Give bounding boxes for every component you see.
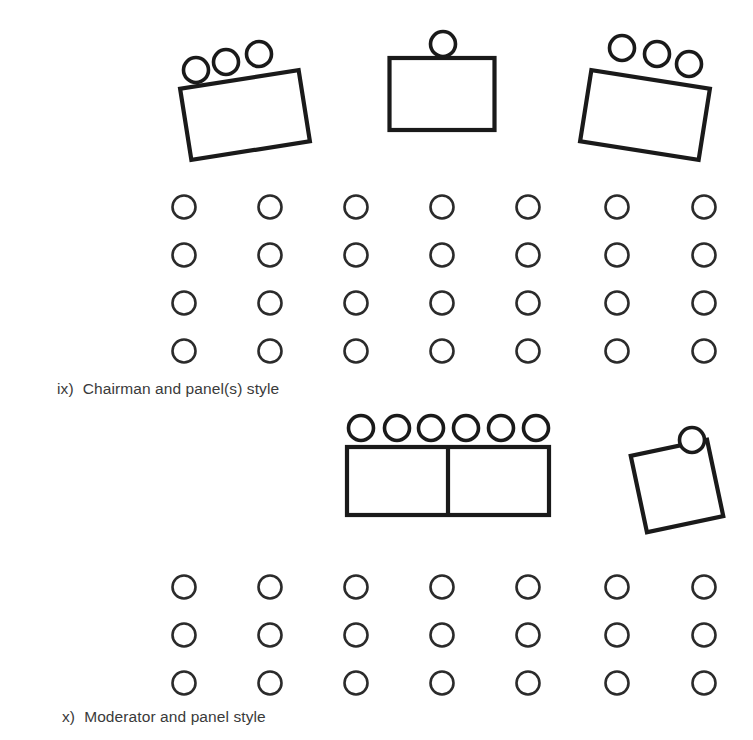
audience-seat xyxy=(693,292,716,315)
panel-chair xyxy=(454,416,479,441)
audience-seat xyxy=(173,672,196,695)
caption-label-ix: Chairman and panel(s) style xyxy=(83,380,280,397)
audience-seat xyxy=(259,244,282,267)
caption-chairman-and-panels: ix)Chairman and panel(s) style xyxy=(57,380,279,398)
audience-row xyxy=(173,340,716,363)
panel-chair xyxy=(385,416,410,441)
caption-moderator-and-panel: x)Moderator and panel style xyxy=(62,708,266,726)
audience-seat xyxy=(693,672,716,695)
audience-seat xyxy=(693,244,716,267)
caption-numeral-ix: ix) xyxy=(57,380,74,398)
panel-chairs-group-right xyxy=(610,36,702,77)
panel-chair xyxy=(677,52,702,77)
audience-seat xyxy=(173,624,196,647)
audience-row xyxy=(173,576,716,599)
panel-chair xyxy=(419,416,444,441)
audience-seat xyxy=(173,196,196,219)
center-chairman-table xyxy=(390,58,495,130)
audience-grid-moderator xyxy=(173,576,716,695)
audience-seat xyxy=(259,576,282,599)
audience-seat xyxy=(345,196,368,219)
right-panel-table xyxy=(580,70,710,160)
panel-chair xyxy=(489,416,514,441)
panel-chair xyxy=(610,36,635,61)
audience-seat xyxy=(431,292,454,315)
audience-seat xyxy=(431,576,454,599)
audience-seat xyxy=(259,672,282,695)
audience-seat xyxy=(345,244,368,267)
audience-seat xyxy=(345,292,368,315)
audience-seat xyxy=(606,292,629,315)
audience-seat xyxy=(431,624,454,647)
panel-chair xyxy=(349,416,374,441)
audience-seat xyxy=(517,292,540,315)
moderator-chair-group xyxy=(680,428,705,453)
section-chairman-and-panels xyxy=(173,32,716,363)
audience-seat xyxy=(259,624,282,647)
audience-seat xyxy=(431,244,454,267)
section-moderator-and-panel xyxy=(173,416,724,695)
panel-chair xyxy=(184,58,209,83)
audience-seat xyxy=(259,196,282,219)
caption-numeral-x: x) xyxy=(62,708,75,726)
audience-seat xyxy=(517,196,540,219)
audience-seat xyxy=(606,624,629,647)
audience-seat xyxy=(517,576,540,599)
audience-seat xyxy=(606,340,629,363)
audience-seat xyxy=(259,340,282,363)
audience-row xyxy=(173,292,716,315)
audience-seat xyxy=(693,624,716,647)
audience-seat xyxy=(606,244,629,267)
seating-layout-diagram: ix)Chairman and panel(s) style x)Moderat… xyxy=(0,0,753,740)
audience-seat xyxy=(431,672,454,695)
audience-seat xyxy=(517,672,540,695)
audience-seat xyxy=(606,672,629,695)
audience-seat xyxy=(693,340,716,363)
panel-chairs-group-moderator xyxy=(349,416,549,441)
audience-row xyxy=(173,624,716,647)
audience-seat xyxy=(173,244,196,267)
audience-seat xyxy=(259,292,282,315)
audience-seat xyxy=(345,672,368,695)
moderator-table xyxy=(631,440,724,533)
audience-seat xyxy=(693,196,716,219)
audience-seat xyxy=(173,340,196,363)
panel-chair xyxy=(247,42,272,67)
audience-seat xyxy=(345,624,368,647)
audience-seat xyxy=(345,576,368,599)
audience-row xyxy=(173,244,716,267)
audience-seat xyxy=(517,244,540,267)
audience-row xyxy=(173,196,716,219)
panel-chair xyxy=(645,42,670,67)
audience-seat xyxy=(173,576,196,599)
audience-seat xyxy=(345,340,368,363)
chairman-chair xyxy=(431,32,456,57)
chairman-chair-group xyxy=(431,32,456,57)
audience-seat xyxy=(431,340,454,363)
panel-chair xyxy=(524,416,549,441)
audience-seat xyxy=(517,624,540,647)
audience-seat xyxy=(431,196,454,219)
seating-diagram-canvas xyxy=(0,0,753,740)
caption-label-x: Moderator and panel style xyxy=(84,708,266,725)
panel-chair xyxy=(214,50,239,75)
audience-grid-chairman xyxy=(173,196,716,363)
moderator-chair xyxy=(680,428,705,453)
audience-seat xyxy=(173,292,196,315)
front-tables-group-moderator xyxy=(347,440,723,533)
audience-seat xyxy=(606,196,629,219)
audience-row xyxy=(173,672,716,695)
front-tables-group-chairman xyxy=(180,58,710,160)
audience-seat xyxy=(606,576,629,599)
audience-seat xyxy=(517,340,540,363)
audience-seat xyxy=(693,576,716,599)
